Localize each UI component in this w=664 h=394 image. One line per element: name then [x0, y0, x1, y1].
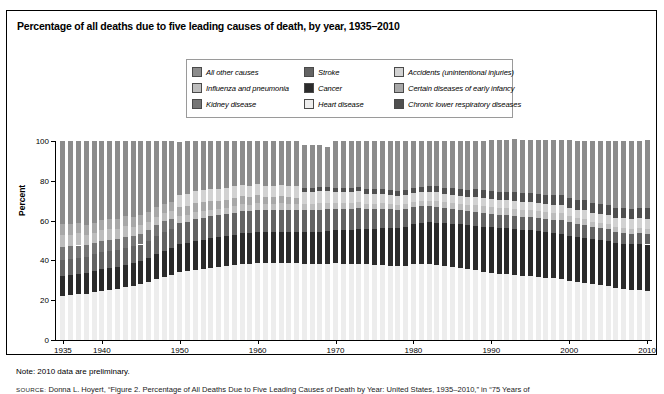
bar-segment-cancer: [123, 265, 128, 287]
bar-segment-cancer: [621, 244, 626, 290]
bar-segment-all_other: [107, 141, 112, 219]
bar-segment-infancy: [201, 202, 206, 211]
bar-segment-heart: [613, 288, 618, 340]
bar-segment-clrd: [310, 188, 315, 192]
y-tick-label: 80: [40, 176, 49, 185]
bar-segment-all_other: [185, 141, 190, 194]
bar-segment-stroke: [559, 220, 564, 234]
bar-segment-all_other: [193, 141, 198, 191]
bar-1957: [232, 141, 237, 340]
bar-segment-influenza: [107, 229, 112, 240]
bar-segment-influenza: [536, 211, 541, 218]
bar-segment-accidents: [536, 203, 541, 211]
bar-segment-influenza: [629, 229, 634, 234]
bar-segment-kidney: [162, 221, 167, 232]
bar-1997: [543, 141, 548, 340]
x-tick-label: 1950: [171, 346, 189, 355]
bar-segment-clrd: [528, 193, 533, 202]
bar-segment-cancer: [442, 223, 447, 267]
figure-panel: Percentage of all deaths due to five lea…: [6, 10, 657, 355]
bar-segment-influenza: [224, 208, 229, 214]
bar-segment-accidents: [629, 219, 634, 229]
bar-segment-all_other: [411, 141, 416, 188]
bar-segment-all_other: [154, 141, 159, 207]
x-tick-mark: [491, 341, 492, 344]
bar-segment-influenza: [177, 216, 182, 223]
bar-segment-influenza: [411, 202, 416, 207]
bar-segment-accidents: [567, 208, 572, 216]
bar-segment-infancy: [255, 195, 260, 203]
bar-segment-cancer: [419, 223, 424, 265]
bar-segment-cancer: [465, 225, 470, 270]
bar-1960: [255, 141, 260, 340]
bar-segment-heart: [450, 267, 455, 340]
bar-segment-heart: [302, 264, 307, 340]
bar-segment-accidents: [364, 194, 369, 204]
x-tick-label: 2010: [638, 346, 656, 355]
bar-segment-cancer: [325, 231, 330, 265]
bar-1952: [193, 141, 198, 340]
bar-segment-all_other: [169, 141, 174, 202]
x-tick-mark: [569, 341, 570, 344]
bar-segment-all_other: [372, 141, 377, 189]
bar-segment-all_other: [201, 141, 206, 190]
bar-segment-cancer: [380, 228, 385, 266]
bar-segment-all_other: [575, 141, 580, 200]
bar-segment-accidents: [208, 189, 213, 201]
bar-segment-cancer: [216, 237, 221, 268]
bar-1975: [372, 141, 377, 340]
bar-segment-all_other: [115, 141, 120, 219]
bar-segment-all_other: [473, 141, 478, 189]
bar-segment-infancy: [232, 198, 237, 206]
bar-segment-all_other: [551, 140, 556, 195]
bar-segment-accidents: [450, 195, 455, 203]
bar-segment-clrd: [473, 189, 478, 197]
bar-segment-cancer: [310, 232, 315, 265]
bar-segment-clrd: [590, 203, 595, 213]
bar-segment-clrd: [302, 188, 307, 192]
bar-1935: [60, 141, 65, 340]
bar-1994: [520, 141, 525, 340]
y-tick-label: 100: [36, 137, 49, 146]
bar-segment-infancy: [169, 202, 174, 211]
bar-segment-clrd: [349, 188, 354, 192]
bar-segment-stroke: [154, 236, 159, 255]
bar-segment-all_other: [364, 141, 369, 189]
bar-segment-stroke: [115, 250, 120, 267]
y-tick-label: 0: [45, 336, 49, 345]
bar-segment-heart: [349, 264, 354, 340]
bar-segment-accidents: [232, 186, 237, 198]
bar-segment-influenza: [364, 204, 369, 209]
x-tick-label: 2000: [560, 346, 578, 355]
bar-segment-heart: [629, 290, 634, 340]
bar-segment-influenza: [341, 203, 346, 209]
bar-segment-heart: [169, 275, 174, 340]
bar-segment-all_other: [92, 141, 97, 223]
bar-segment-cancer: [201, 240, 206, 270]
bar-segment-cancer: [286, 232, 291, 264]
bar-segment-accidents: [621, 218, 626, 228]
bar-segment-stroke: [543, 219, 548, 232]
bar-segment-stroke: [247, 211, 252, 233]
x-tick-mark: [63, 341, 64, 344]
plot-area: Percent 020406080100 1935194019501960197…: [7, 11, 658, 356]
bar-segment-stroke: [536, 218, 541, 231]
bar-segment-all_other: [536, 140, 541, 194]
bar-2009: [637, 141, 642, 340]
bar-segment-stroke: [551, 220, 556, 233]
bar-segment-stroke: [317, 210, 322, 232]
bar-segment-stroke: [450, 209, 455, 224]
bar-segment-stroke: [232, 213, 237, 235]
bar-segment-stroke: [419, 206, 424, 223]
bar-segment-clrd: [372, 189, 377, 194]
bar-segment-heart: [388, 266, 393, 340]
bar-segment-influenza: [169, 211, 174, 219]
bar-segment-accidents: [551, 205, 556, 213]
bar-segment-influenza: [567, 216, 572, 222]
bar-segment-influenza: [232, 206, 237, 213]
bar-segment-kidney: [138, 234, 143, 245]
bar-segment-infancy: [193, 203, 198, 212]
bar-segment-accidents: [247, 186, 252, 197]
y-axis-ticks: 020406080100: [27, 141, 55, 346]
bar-segment-all_other: [84, 141, 89, 225]
